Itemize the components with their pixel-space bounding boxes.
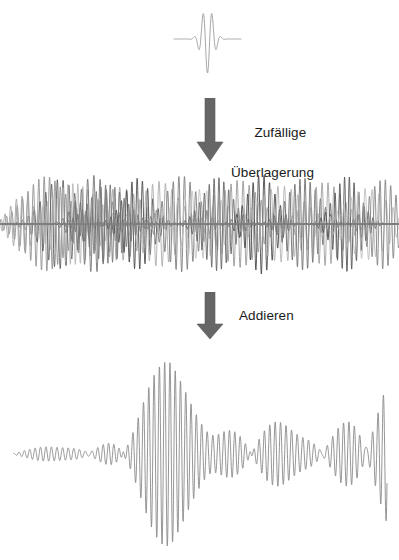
random-superposition-panel: [0, 170, 399, 278]
down-arrow-add: [196, 292, 224, 340]
down-arrow-superposition: [196, 98, 224, 162]
wave-packet-line: [174, 14, 241, 73]
random-superposition-plot: [0, 170, 399, 278]
summed-wave-plot: [0, 358, 399, 550]
label-superposition-line1: Zufällige: [254, 125, 306, 140]
summed-wave-line: [14, 362, 387, 546]
label-add: Addieren: [239, 306, 294, 326]
arrow-down-icon: [196, 292, 224, 340]
single-wave-packet-plot: [170, 2, 245, 76]
arrow-shape: [197, 98, 223, 161]
arrow-down-icon: [196, 98, 224, 162]
summed-wave-panel: [0, 358, 399, 550]
single-wave-packet-panel: [170, 2, 245, 76]
arrow-shape: [197, 292, 223, 339]
wave-superposition-figure: Zufällige Überlagerung Addieren: [0, 0, 399, 560]
